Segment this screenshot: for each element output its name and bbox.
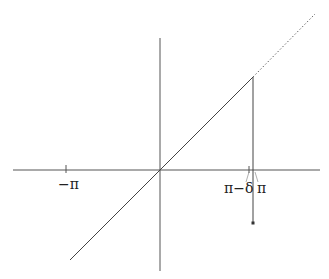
endpoint-dot: [252, 222, 255, 225]
solid-diagonal-line: [70, 77, 253, 260]
label-pi-minus-delta: π−δ: [224, 181, 253, 195]
label-neg-pi: −π: [58, 177, 79, 191]
label-pi: π: [257, 181, 266, 195]
diagram-canvas: [0, 0, 329, 279]
dotted-extension: [253, 14, 315, 77]
